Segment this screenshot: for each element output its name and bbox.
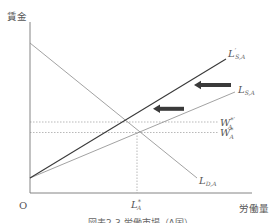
supply-label: LS,A [237,84,255,96]
supply-curve [30,92,235,178]
demand-label: LD,A [198,175,217,187]
subscript: A [136,204,142,211]
shift-arrow-upper [194,81,231,89]
arrow-head [194,81,201,89]
quantity-label: L*A [130,198,142,211]
figure-caption: 図表2-3 労働市場（A国） [88,217,193,223]
y-axis-label: 賃金 [7,11,27,22]
shifted-supply-curve [30,59,226,178]
origin-label: O [19,200,27,211]
diagram-canvas: 賃金 労働量 O L′S,A LS,A LD,A W*′A W*A L*A 図表… [0,0,278,223]
arrow-left-icon [200,83,231,87]
x-axis-label: 労働量 [239,203,269,214]
wage-original-label: W*A [220,126,235,140]
subscript: S,A [235,53,246,60]
arrow-head [153,105,160,113]
arrow-left-icon [159,107,184,111]
subscript: S,A [245,89,256,96]
labor-market-diagram: 賃金 労働量 O L′S,A LS,A LD,A W*′A W*A L*A 図表… [0,0,278,223]
shift-arrow-lower [153,105,184,113]
shifted-supply-label: L′S,A [227,47,246,60]
subscript: A [229,133,235,140]
subscript: D,A [205,180,218,187]
